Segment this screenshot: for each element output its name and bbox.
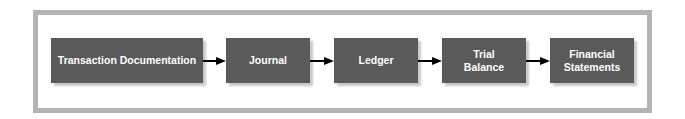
step-label: Journal [249,54,287,67]
step-label: Transaction Documentation [58,54,196,67]
step-transaction-documentation: Transaction Documentation [51,38,203,83]
arrow-right-icon [310,56,334,60]
arrow-right-icon [203,56,226,60]
step-label: Ledger [358,54,393,67]
arrow-right-icon [526,56,550,60]
step-financial-statements: Financial Statements [550,38,634,83]
step-trial-balance: Trial Balance [442,38,526,83]
step-ledger: Ledger [334,38,418,83]
step-label-line-2: Statements [564,61,621,74]
step-label-line-2: Balance [464,61,504,74]
step-journal: Journal [226,38,310,83]
arrow-right-icon [418,56,442,60]
step-label-line-1: Trial [473,48,495,61]
step-label-line-1: Financial [569,48,615,61]
